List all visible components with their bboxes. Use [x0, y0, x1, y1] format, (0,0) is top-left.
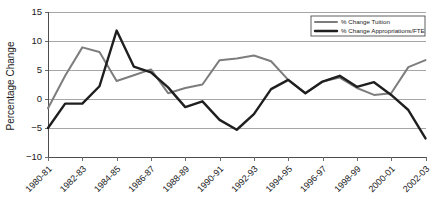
- x-tick-label: 1988-89: [161, 164, 191, 194]
- chart-legend[interactable]: % Change Tuition% Change Appropriations/…: [311, 16, 425, 36]
- legend-label-1: % Change Tuition: [341, 18, 390, 25]
- x-tick-label: 2002-03: [401, 164, 431, 194]
- y-tick-label: 0: [37, 93, 42, 104]
- y-tick-label: 5: [37, 64, 42, 75]
- x-tick-label: 1980-81: [23, 164, 53, 194]
- line-chart: 151050−5−10 1980-811982-831984-851986-87…: [0, 0, 437, 199]
- series-line-2: [48, 31, 426, 139]
- y-axis-title: Percentage Change: [5, 41, 16, 130]
- y-axis-tick-labels: 151050−5−10: [26, 6, 42, 162]
- x-tick-label: 1986-87: [126, 164, 156, 194]
- x-tick-label: 1982-83: [58, 164, 88, 194]
- y-tick-label: −10: [26, 151, 42, 162]
- x-tick-label: 1992-93: [229, 164, 259, 194]
- legend-label-2: % Change Appropriations/FTE: [341, 27, 425, 34]
- y-tick-label: 15: [31, 6, 42, 17]
- x-tick-label: 1990-91: [195, 164, 225, 194]
- data-series: [48, 31, 426, 139]
- y-tick-label: −5: [31, 122, 42, 133]
- chart-container: 151050−5−10 1980-811982-831984-851986-87…: [0, 0, 437, 199]
- x-tick-label: 2000-01: [367, 164, 397, 194]
- x-tick-label: 1998-99: [332, 164, 362, 194]
- y-tick-label: 10: [31, 35, 42, 46]
- x-tick-label: 1996-97: [298, 164, 328, 194]
- x-axis-tick-labels: 1980-811982-831984-851986-871988-891990-…: [23, 164, 431, 194]
- x-tick-label: 1994-95: [264, 164, 294, 194]
- x-tick-label: 1984-85: [92, 164, 122, 194]
